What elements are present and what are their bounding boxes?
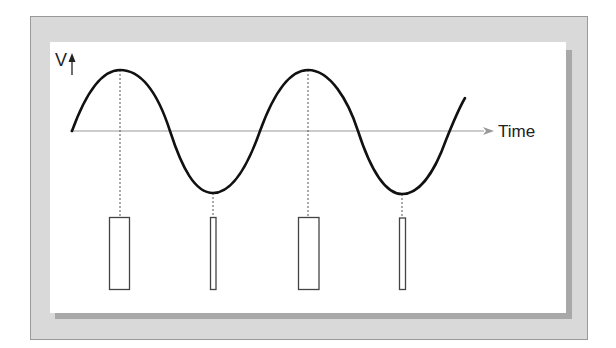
waveform-diagram [0, 0, 616, 348]
pulse-train [110, 218, 406, 290]
guide-lines [120, 70, 402, 218]
sine-waveform [72, 70, 465, 194]
voltage-label: V [55, 51, 67, 69]
voltage-axis-arrow-icon [69, 53, 76, 62]
pulse-2 [211, 218, 217, 290]
time-axis-arrow-icon [483, 127, 494, 135]
pulse-1 [110, 218, 130, 290]
pulse-3 [299, 218, 320, 290]
pulse-4 [400, 218, 406, 290]
time-label: Time [498, 123, 535, 140]
